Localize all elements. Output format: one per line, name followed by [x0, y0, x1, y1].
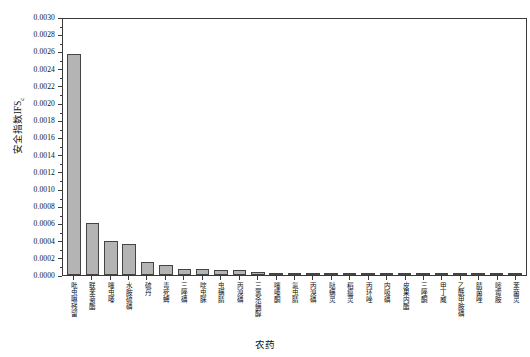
x-tick-label: 丙溴磷: [236, 282, 243, 303]
bar: [141, 262, 155, 275]
x-tick-mark: [128, 276, 129, 280]
x-tick-mark: [497, 276, 498, 280]
bar: [361, 273, 375, 275]
x-tick-label: 水胺硫磷: [125, 282, 132, 310]
bar: [380, 273, 394, 275]
x-tick-mark: [110, 276, 111, 280]
x-label-slot: 虫螨腈: [212, 282, 230, 342]
bar-slot: [194, 19, 212, 275]
x-tick-mark: [405, 276, 406, 280]
x-tick-mark: [183, 276, 184, 280]
bar-slot: [249, 19, 267, 275]
x-tick-mark: [368, 276, 369, 280]
y-tick-label: 0.0010: [34, 186, 58, 194]
x-tick-mark: [423, 276, 424, 280]
bar-slot: [138, 19, 156, 275]
x-tick-mark: [202, 276, 203, 280]
bar: [306, 273, 320, 275]
bar-slot: [506, 19, 524, 275]
bar-slot: [102, 19, 120, 275]
x-tick-mark: [349, 276, 350, 280]
x-tick-label: 虫螨腈: [217, 282, 224, 303]
bar-slot: [414, 19, 432, 275]
chart-figure: 0.00300.00280.00260.00240.00220.00200.00…: [0, 0, 530, 357]
y-tick-label: 0.0012: [34, 169, 58, 177]
bar: [196, 269, 210, 275]
y-tick-label: 0.0030: [34, 14, 58, 22]
x-tick-mark: [239, 276, 240, 280]
x-tick-label: 腈菌唑: [475, 282, 482, 303]
x-tick-mark: [312, 276, 313, 280]
x-label-slot: 嘧霉胺: [488, 282, 506, 342]
y-axis-title: 安全指数IFSc: [10, 16, 26, 236]
bar-slot: [304, 19, 322, 275]
bar: [288, 273, 302, 275]
x-tick-mark: [331, 276, 332, 280]
bar-slot: [230, 19, 248, 275]
x-tick-mark: [276, 276, 277, 280]
bar: [471, 273, 485, 275]
bar-slot: [212, 19, 230, 275]
x-tick-label: 噻嗪酮: [272, 282, 279, 303]
bars-container: [63, 19, 526, 275]
x-tick-label: 硫丹: [143, 282, 150, 296]
x-tick-mark: [73, 276, 74, 280]
bar: [343, 273, 357, 275]
bar-slot: [340, 19, 358, 275]
x-label-slot: 腈菌唑: [470, 282, 488, 342]
x-label-slot: 乙酰甲胺磷: [451, 282, 469, 342]
x-label-slot: 三氯杀螨醇: [248, 282, 266, 342]
x-tick-label: 氟虫腈: [291, 282, 298, 303]
x-tick-mark: [257, 276, 258, 280]
x-label-slot: 毒死蜱: [156, 282, 174, 342]
x-label-slot: 皮果内酯: [396, 282, 414, 342]
bar: [233, 270, 247, 275]
x-tick-mark: [441, 276, 442, 280]
x-tick-mark: [165, 276, 166, 280]
x-tick-mark: [220, 276, 221, 280]
x-tick-label: 嘧霉胺: [494, 282, 501, 303]
y-tick-label: 0.0008: [34, 203, 58, 211]
x-label-slot: 水胺硫磷: [119, 282, 137, 342]
x-tick-label: 内吸磷: [383, 282, 390, 303]
x-tick-label: 吡虫啉残留: [70, 282, 77, 317]
bar: [251, 272, 265, 275]
x-tick-label: 乙酰甲胺磷: [457, 282, 464, 317]
x-tick-label: 皮果内酯: [402, 282, 409, 310]
y-tick-label: 0.0018: [34, 117, 58, 125]
bar: [86, 223, 100, 275]
bar: [178, 269, 192, 275]
bar: [416, 273, 430, 275]
x-label-slot: 哒螨灵: [322, 282, 340, 342]
y-tick-label: 0.0026: [34, 48, 58, 56]
y-tick-label: 0.0004: [34, 238, 58, 246]
x-tick-label: 三唑磷: [180, 282, 187, 303]
x-label-slot: 联苯菊酯: [82, 282, 100, 342]
bar-slot: [487, 19, 505, 275]
bar: [269, 273, 283, 275]
x-tick-label: 丙环唑: [365, 282, 372, 303]
bar-slot: [395, 19, 413, 275]
x-tick-mark: [460, 276, 461, 280]
x-label-slot: 苯菌灵: [507, 282, 525, 342]
bar-slot: [83, 19, 101, 275]
x-label-slot: 吡虫啉残留: [64, 282, 82, 342]
bar-slot: [120, 19, 138, 275]
y-tick-label: 0.0024: [34, 66, 58, 74]
plot-area: [62, 18, 527, 276]
x-label-slot: 三唑酮: [414, 282, 432, 342]
x-tick-mark: [515, 276, 516, 280]
x-tick-label: 丙溴磷: [309, 282, 316, 303]
y-axis-title-text: 安全指数IFS: [13, 101, 23, 155]
x-tick-label: 联苯菊酯: [88, 282, 95, 310]
y-axis-title-subscript: c: [18, 98, 26, 101]
bar-slot: [285, 19, 303, 275]
x-label-slot: 甲丁威: [433, 282, 451, 342]
x-tick-mark: [146, 276, 147, 280]
x-label-slot: 丙溴磷: [230, 282, 248, 342]
y-tick-label: 0.0006: [34, 220, 58, 228]
x-axis-labels: 吡虫啉残留联苯菊酯噻虫嗪水胺硫磷硫丹毒死蜱三唑磷啶虫脒虫螨腈丙溴磷三氯杀螨醇噻嗪…: [62, 282, 527, 342]
bar: [104, 241, 118, 275]
bar-slot: [451, 19, 469, 275]
x-label-slot: 丙溴磷: [304, 282, 322, 342]
